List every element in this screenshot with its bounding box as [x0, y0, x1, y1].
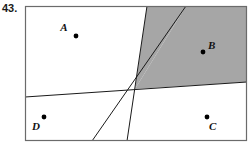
point-C-dot — [205, 115, 210, 120]
geometry-diagram: A B C D — [0, 0, 252, 147]
figure-container: 43. A B C D — [0, 0, 252, 147]
point-B-dot — [201, 50, 206, 55]
point-B-label: B — [207, 39, 215, 51]
point-D-dot — [42, 115, 47, 120]
point-C-label: C — [209, 120, 217, 132]
point-A-dot — [74, 34, 79, 39]
point-D-label: D — [31, 120, 40, 132]
point-A-label: A — [59, 21, 67, 33]
